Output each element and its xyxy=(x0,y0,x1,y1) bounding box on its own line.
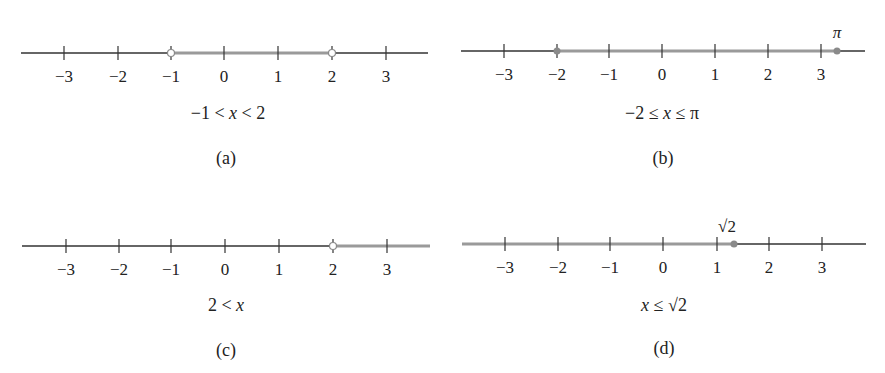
number-line-d: √2 −3 −2 −1 0 1 2 3 xyxy=(462,217,866,277)
caption-d: (d) xyxy=(654,338,675,359)
caption-a: (a) xyxy=(216,148,236,169)
closed-endpoint-marker xyxy=(834,48,841,55)
tick-label: −1 xyxy=(600,65,618,84)
inequality-d: x ≤ √2 xyxy=(641,295,687,316)
tick-label: −1 xyxy=(162,260,180,279)
sqrt2-label: √2 xyxy=(718,217,736,236)
number-line-b: π −3 −2 −1 0 1 2 3 xyxy=(461,23,865,84)
tick-label: −2 xyxy=(109,67,127,86)
open-endpoint-marker xyxy=(168,50,175,57)
tick-label: −2 xyxy=(548,65,566,84)
tick-label: 0 xyxy=(658,65,667,84)
number-line-a: −3 −2 −1 0 1 2 3 xyxy=(21,46,428,86)
tick-label: 1 xyxy=(713,258,722,277)
tick-label: −1 xyxy=(162,67,180,86)
closed-endpoint-marker xyxy=(731,241,738,248)
open-endpoint-marker xyxy=(330,243,337,250)
inequality-b: −2 ≤ x ≤ π xyxy=(625,103,699,124)
tick-label: 3 xyxy=(383,260,392,279)
number-lines-figure: −3 −2 −1 0 1 2 3 π −3 −2 −1 0 1 2 3 xyxy=(0,0,885,373)
tick-label: 3 xyxy=(817,65,826,84)
tick-label: −1 xyxy=(601,258,619,277)
tick-label: 2 xyxy=(764,65,773,84)
tick-label: 0 xyxy=(221,260,230,279)
tick-label: 3 xyxy=(382,67,391,86)
tick-label: 1 xyxy=(711,65,720,84)
tick-label: −2 xyxy=(549,258,567,277)
pi-label: π xyxy=(833,23,842,42)
open-endpoint-marker xyxy=(329,50,336,57)
number-line-c: −3 −2 −1 0 1 2 3 xyxy=(22,239,430,279)
tick-label: −3 xyxy=(55,67,73,86)
inequality-c: 2 < x xyxy=(208,295,244,316)
tick-label: 2 xyxy=(765,258,774,277)
tick-label: 3 xyxy=(818,258,827,277)
inequality-a: −1 < x < 2 xyxy=(191,103,265,124)
tick-label: −3 xyxy=(57,260,75,279)
tick-label: −3 xyxy=(496,258,514,277)
tick-label: −2 xyxy=(110,260,128,279)
tick-label: 1 xyxy=(274,67,283,86)
tick-label: 0 xyxy=(220,67,229,86)
closed-endpoint-marker xyxy=(554,48,561,55)
tick-label: −3 xyxy=(495,65,513,84)
tick-label: 0 xyxy=(659,258,668,277)
tick-label: 2 xyxy=(328,67,337,86)
caption-b: (b) xyxy=(653,148,674,169)
tick-label: 2 xyxy=(329,260,338,279)
tick-label: 1 xyxy=(275,260,284,279)
caption-c: (c) xyxy=(216,340,236,361)
